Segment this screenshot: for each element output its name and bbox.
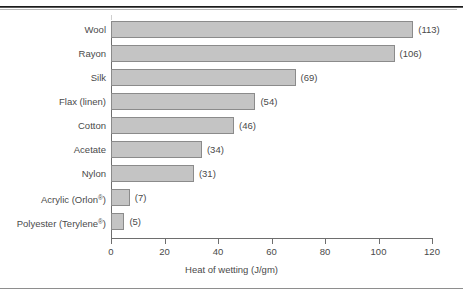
x-axis-tick-label: 120 bbox=[424, 246, 440, 257]
bar[interactable] bbox=[111, 117, 234, 134]
bar-row[interactable] bbox=[111, 21, 413, 38]
category-label: Flax (linen) bbox=[59, 93, 106, 110]
bar[interactable] bbox=[111, 141, 202, 158]
x-axis-tick-label: 0 bbox=[108, 246, 113, 257]
bar-row[interactable] bbox=[111, 141, 202, 158]
x-axis-tick bbox=[379, 239, 380, 244]
x-axis-tick bbox=[111, 239, 112, 244]
bar-row[interactable] bbox=[111, 117, 234, 134]
category-label: Acetate bbox=[74, 141, 106, 158]
registered-trademark-icon: ® bbox=[98, 194, 103, 201]
bar[interactable] bbox=[111, 213, 124, 230]
bar[interactable] bbox=[111, 93, 255, 110]
category-label: Nylon bbox=[82, 165, 106, 182]
bar-row[interactable] bbox=[111, 69, 296, 86]
bar-chart-plot-area: 020406080100120(113)Wool(106)Rayon(69)Si… bbox=[0, 0, 463, 297]
x-axis-tick bbox=[218, 239, 219, 244]
bar[interactable] bbox=[111, 45, 395, 62]
registered-trademark-icon: ® bbox=[98, 218, 103, 225]
category-label: Wool bbox=[85, 21, 106, 38]
bar[interactable] bbox=[111, 189, 130, 206]
x-axis-tick-label: 80 bbox=[320, 246, 331, 257]
bar-value-label: (31) bbox=[199, 168, 216, 179]
bar-value-label: (54) bbox=[260, 96, 277, 107]
category-label: Polyester (Terylene®) bbox=[17, 213, 106, 230]
bar[interactable] bbox=[111, 165, 194, 182]
category-label: Acrylic (Orlon®) bbox=[41, 189, 106, 206]
bar-value-label: (106) bbox=[400, 48, 422, 59]
figure-container: 020406080100120(113)Wool(106)Rayon(69)Si… bbox=[0, 0, 463, 297]
bar-value-label: (34) bbox=[207, 144, 224, 155]
bar-value-label: (5) bbox=[129, 216, 141, 227]
bar[interactable] bbox=[111, 21, 413, 38]
bar-row[interactable] bbox=[111, 165, 194, 182]
x-axis-tick bbox=[325, 239, 326, 244]
x-axis-tick bbox=[272, 239, 273, 244]
x-axis-tick-label: 60 bbox=[266, 246, 277, 257]
bar-row[interactable] bbox=[111, 93, 255, 110]
x-axis-tick bbox=[432, 239, 433, 244]
bar-value-label: (69) bbox=[301, 72, 318, 83]
x-axis-tick-label: 100 bbox=[371, 246, 387, 257]
x-axis-tick-label: 20 bbox=[159, 246, 170, 257]
bar-value-label: (7) bbox=[135, 192, 147, 203]
bar-value-label: (46) bbox=[239, 120, 256, 131]
bar[interactable] bbox=[111, 69, 296, 86]
bar-row[interactable] bbox=[111, 213, 124, 230]
category-label: Silk bbox=[91, 69, 106, 86]
y-axis-top-nub bbox=[111, 15, 112, 20]
x-axis-tick-label: 40 bbox=[213, 246, 224, 257]
bar-row[interactable] bbox=[111, 189, 130, 206]
category-label: Cotton bbox=[78, 117, 106, 134]
bar-value-label: (113) bbox=[418, 24, 439, 35]
x-axis-title: Heat of wetting (J/gm) bbox=[0, 264, 463, 275]
x-axis-tick bbox=[165, 239, 166, 244]
category-label: Rayon bbox=[79, 45, 106, 62]
bar-row[interactable] bbox=[111, 45, 395, 62]
